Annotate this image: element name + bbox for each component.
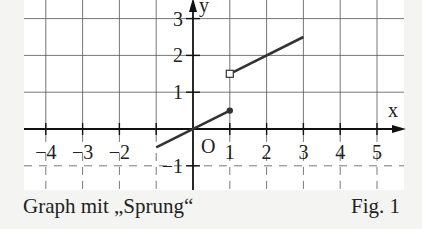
x-tick-label: 3 xyxy=(298,141,308,163)
plot-area: −4−3−212345−1123Oxy xyxy=(24,0,406,190)
y-tick-label: 3 xyxy=(173,8,183,30)
x-axis-label: x xyxy=(388,99,398,121)
x-tick-label: −2 xyxy=(109,141,130,163)
origin-label: O xyxy=(201,135,215,157)
caption-title: Graph mit „Sprung“ xyxy=(23,194,193,219)
y-tick-label: −1 xyxy=(162,155,183,177)
y-tick-label: 2 xyxy=(173,44,183,66)
y-tick-label: 1 xyxy=(173,81,183,103)
x-tick-label: 2 xyxy=(262,141,272,163)
y-axis-label: y xyxy=(199,0,209,17)
open-square-marker xyxy=(226,70,233,77)
x-tick-label: 5 xyxy=(372,141,382,163)
figure-label: Fig. 1 xyxy=(351,194,400,219)
x-tick-label: −3 xyxy=(72,141,93,163)
x-tick-label: 4 xyxy=(335,141,345,163)
filled-dot-marker xyxy=(227,107,233,113)
x-tick-label: 1 xyxy=(225,141,235,163)
x-tick-label: −4 xyxy=(35,141,56,163)
